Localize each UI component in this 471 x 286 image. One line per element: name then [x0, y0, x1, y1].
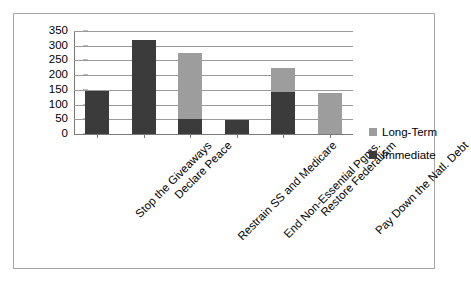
- bar-segment-immediate[interactable]: [178, 119, 202, 134]
- legend-item[interactable]: Immediate: [369, 149, 459, 161]
- y-axis-tick-label: 150: [49, 84, 68, 96]
- bar-slot: [167, 31, 214, 134]
- y-axis-tick-label: 250: [49, 55, 68, 67]
- legend-swatch-icon: [369, 151, 377, 159]
- bar-segment-immediate[interactable]: [271, 92, 295, 134]
- y-axis-tick-label: 200: [49, 69, 68, 81]
- bar-stack[interactable]: [225, 120, 249, 134]
- bar-segment-long-term[interactable]: [178, 53, 202, 119]
- bar-stack[interactable]: [85, 91, 109, 134]
- bar-slot: [214, 31, 261, 134]
- bar-stack[interactable]: [271, 68, 295, 135]
- y-axis-tick-label: 50: [55, 114, 68, 126]
- bar-segment-immediate[interactable]: [132, 40, 156, 134]
- y-axis-tick-label: 350: [49, 25, 68, 37]
- bar-stack[interactable]: [132, 40, 156, 134]
- bar-stack[interactable]: [178, 53, 202, 134]
- bar-slot: [260, 31, 307, 134]
- y-axis-tick-label: 100: [49, 99, 68, 111]
- y-axis-labels: 350300250200150100500: [28, 31, 72, 134]
- bar-slot: [307, 31, 354, 134]
- bar-segment-long-term[interactable]: [271, 68, 295, 93]
- bar-segment-long-term[interactable]: [318, 93, 342, 134]
- bar-segment-immediate[interactable]: [85, 91, 109, 134]
- x-axis-labels: Stop the GiveawaysDeclare PeaceRestrain …: [74, 135, 353, 255]
- plot-wrapper: 350300250200150100500 Stop the Giveaways…: [14, 14, 434, 268]
- y-axis-tick-label: 0: [62, 128, 68, 140]
- bar-slot: [121, 31, 168, 134]
- chart-container: 350300250200150100500 Stop the Giveaways…: [13, 13, 435, 269]
- legend-swatch-icon: [369, 128, 377, 136]
- legend-item[interactable]: Long-Term: [369, 126, 459, 138]
- legend-item-label: Immediate: [382, 149, 436, 161]
- legend-item-label: Long-Term: [382, 126, 437, 138]
- y-axis-tick-label: 300: [49, 40, 68, 52]
- bar-stack[interactable]: [318, 93, 342, 134]
- bar-segment-immediate[interactable]: [225, 120, 249, 134]
- bar-slot: [74, 31, 121, 134]
- plot-area: [74, 31, 353, 134]
- chart-legend: Long-TermImmediate: [369, 126, 459, 172]
